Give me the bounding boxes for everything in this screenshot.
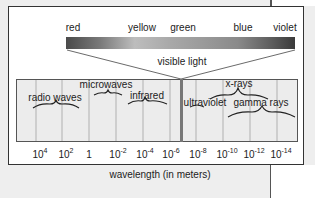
x-tick: 10-2 (109, 149, 126, 160)
page-edge (270, 165, 271, 198)
background-corner (271, 165, 315, 198)
region-label-infrared: infrared (130, 90, 164, 101)
region-label-gamma-rays: gamma rays (233, 97, 288, 108)
region-label-ultraviolet: ultraviolet (184, 97, 227, 108)
x-tick: 10-14 (270, 149, 291, 160)
x-tick: 10-12 (243, 149, 264, 160)
x-tick: 10-10 (216, 149, 237, 160)
x-axis-title: wavelength (in meters) (109, 169, 210, 180)
region-label-x-rays: x-rays (225, 78, 252, 89)
x-tick: 1 (86, 149, 92, 160)
x-tick: 10-6 (162, 149, 179, 160)
region-label-microwaves: microwaves (80, 79, 133, 90)
x-tick: 10-4 (136, 149, 153, 160)
x-tick: 104 (32, 149, 47, 160)
visible-light-marker (180, 79, 183, 142)
x-tick: 102 (58, 149, 73, 160)
region-label-radio-waves: radio waves (28, 92, 81, 103)
x-tick: 10-8 (189, 149, 206, 160)
